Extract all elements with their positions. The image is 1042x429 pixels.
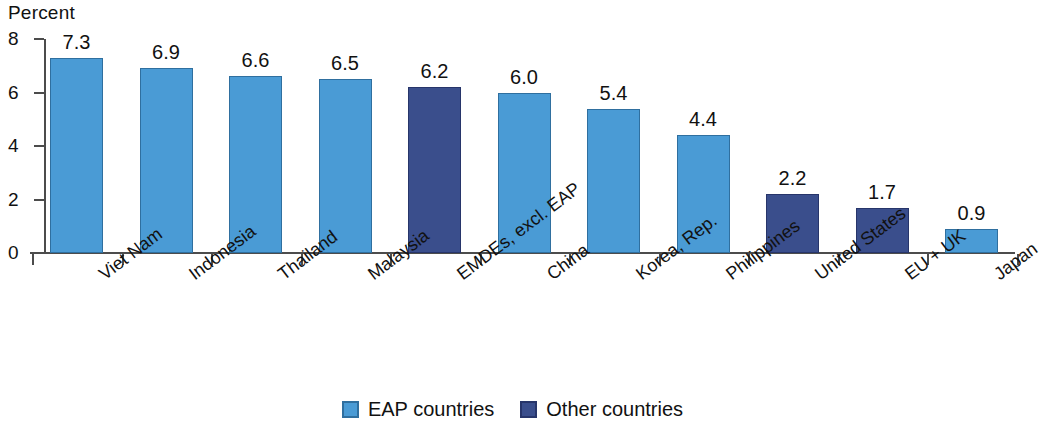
chart-legend: EAP countriesOther countries: [0, 398, 1025, 421]
x-axis-tick: [32, 254, 34, 265]
bar-value-label: 6.9: [130, 41, 203, 64]
bar-value-label: 7.3: [40, 31, 113, 54]
y-axis-title: Percent: [8, 2, 75, 24]
bar-value-label: 1.7: [846, 181, 919, 204]
bar: [587, 109, 640, 253]
legend-label: EAP countries: [368, 398, 494, 421]
legend-item-other[interactable]: Other countries: [520, 398, 683, 421]
bar-value-label: 2.2: [756, 167, 829, 190]
y-axis-tick-label: 6: [8, 82, 19, 104]
y-axis-tick: [34, 252, 44, 254]
bar-value-label: 0.9: [935, 202, 1008, 225]
y-axis-tick-label: 0: [8, 242, 19, 264]
y-axis-tick-label: 2: [8, 189, 19, 211]
y-axis-tick: [34, 145, 44, 147]
legend-swatch-other: [520, 401, 537, 418]
y-axis-tick: [34, 199, 44, 201]
bar-value-label: 6.6: [219, 49, 292, 72]
bar-value-label: 6.5: [309, 52, 382, 75]
bar-value-label: 6.2: [398, 60, 471, 83]
bar: [50, 58, 103, 253]
legend-item-eap[interactable]: EAP countries: [342, 398, 494, 421]
bar: [140, 68, 193, 253]
y-axis-tick-label: 8: [8, 28, 19, 50]
y-axis-tick-label: 4: [8, 135, 19, 157]
y-axis-tick: [34, 92, 44, 94]
legend-label: Other countries: [546, 398, 683, 421]
bar-value-label: 6.0: [488, 66, 561, 89]
bar-value-label: 5.4: [577, 82, 650, 105]
bar-value-label: 4.4: [667, 108, 740, 131]
legend-swatch-eap: [342, 401, 359, 418]
bar: [229, 76, 282, 253]
